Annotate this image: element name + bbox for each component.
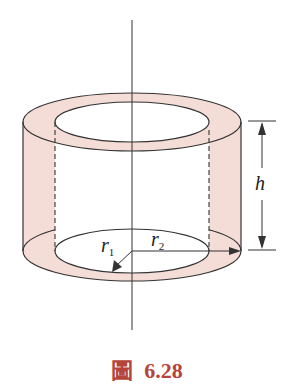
- hollow-cylinder-diagram: h r1 r2: [0, 0, 294, 392]
- h-arrow-down-icon: [258, 236, 266, 249]
- h-arrow-up-icon: [258, 122, 266, 135]
- figure-caption: 圖 6.28: [0, 352, 294, 384]
- caption-char: 圖: [111, 358, 133, 383]
- label-h: h: [255, 172, 265, 194]
- caption-number: 6.28: [144, 358, 183, 383]
